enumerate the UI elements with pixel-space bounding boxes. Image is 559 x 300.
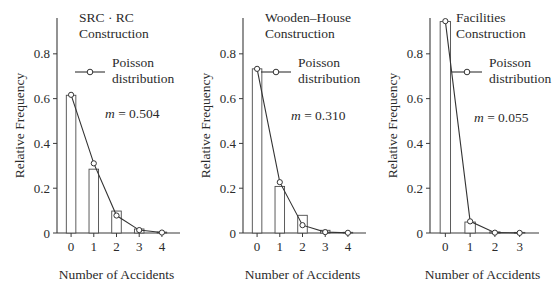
y-tick-label: 0.4	[407, 136, 424, 151]
legend-marker-icon	[273, 69, 279, 75]
x-tick-label: 3	[516, 239, 523, 254]
panel-title-line: Construction	[456, 26, 526, 41]
y-tick-label: 0	[417, 226, 424, 241]
poisson-marker	[345, 230, 350, 235]
y-tick-label: 0.2	[407, 181, 423, 196]
x-tick-label: 0	[68, 239, 75, 254]
x-tick-label: 2	[113, 239, 120, 254]
panel-title: SRC · RCConstruction	[79, 10, 149, 41]
poisson-marker	[137, 227, 142, 232]
y-axis-ticks: 00.20.40.60.8	[407, 46, 430, 240]
x-tick-label: 3	[322, 239, 329, 254]
x-axis-label: Number of Accidents	[245, 267, 360, 282]
poisson-marker	[68, 92, 73, 97]
y-tick-label: 0.6	[220, 91, 237, 106]
y-tick-label: 0.6	[34, 91, 51, 106]
legend-marker-icon	[464, 69, 470, 75]
x-tick-label: 2	[492, 239, 499, 254]
panel-title-line: Construction	[265, 26, 335, 41]
x-tick-label: 4	[345, 239, 352, 254]
x-tick-label: 3	[136, 239, 143, 254]
y-tick-label: 0.8	[220, 46, 236, 61]
poisson-marker	[159, 230, 164, 235]
panel-title-line: Wooden–House	[265, 10, 351, 25]
legend: Poissondistribution	[261, 55, 361, 86]
poisson-marker	[91, 161, 96, 166]
poisson-curve	[257, 69, 348, 233]
legend-label-line: distribution	[298, 71, 361, 86]
poisson-marker	[114, 213, 119, 218]
y-tick-label: 0.2	[220, 181, 236, 196]
chart-panel: 00.20.40.60.801234SRC · RCConstructionPo…	[0, 0, 190, 300]
x-axis-ticks: 01234	[68, 233, 166, 254]
x-tick-label: 0	[254, 239, 260, 254]
poisson-marker	[277, 180, 282, 185]
panel-title-line: Facilities	[456, 10, 506, 25]
poisson-marker	[300, 223, 305, 228]
poisson-marker	[468, 219, 473, 224]
mean-annotation: m = 0.055	[474, 110, 529, 125]
poisson-marker	[323, 230, 328, 235]
histogram-bar	[275, 186, 285, 233]
y-axis-label: Relative Frequency	[12, 73, 27, 179]
legend-label-line: Poisson	[489, 55, 531, 70]
x-axis-label: Number of Accidents	[59, 267, 174, 282]
x-axis-ticks: 01234	[254, 233, 352, 254]
y-tick-label: 0.8	[407, 46, 423, 61]
legend: Poissondistribution	[452, 55, 552, 86]
y-tick-label: 0.6	[407, 91, 424, 106]
panel-title: FacilitiesConstruction	[456, 10, 526, 41]
legend-marker-icon	[87, 69, 93, 75]
x-tick-label: 4	[159, 239, 166, 254]
legend-label-line: Poisson	[298, 55, 340, 70]
x-tick-label: 1	[467, 239, 474, 254]
mean-annotation: m = 0.504	[105, 106, 160, 121]
x-axis-ticks: 0123	[442, 233, 523, 254]
y-tick-label: 0.2	[34, 181, 50, 196]
panel-title: Wooden–HouseConstruction	[265, 10, 351, 41]
chart-panel: 00.20.40.60.80123FacilitiesConstructionP…	[376, 0, 559, 300]
legend: Poissondistribution	[75, 55, 175, 86]
x-tick-label: 1	[277, 239, 284, 254]
mean-annotation: m = 0.310	[291, 108, 346, 123]
x-tick-label: 1	[91, 239, 98, 254]
y-axis-label: Relative Frequency	[385, 73, 400, 179]
histogram-bar	[89, 169, 99, 233]
poisson-marker	[492, 230, 497, 235]
chart-panel: 00.20.40.60.801234Wooden–HouseConstructi…	[190, 0, 376, 300]
poisson-series	[254, 66, 350, 235]
poisson-marker	[443, 19, 448, 24]
poisson-marker	[254, 66, 259, 71]
poisson-marker	[517, 230, 522, 235]
y-axis-ticks: 00.20.40.60.8	[220, 46, 243, 240]
panel-title-line: SRC · RC	[79, 10, 134, 25]
panel-title-line: Construction	[79, 26, 149, 41]
bar-series	[440, 22, 525, 233]
y-tick-label: 0.8	[34, 46, 50, 61]
poisson-curve	[445, 21, 519, 233]
x-axis-label: Number of Accidents	[425, 267, 540, 282]
legend-label-line: distribution	[489, 71, 552, 86]
x-tick-label: 0	[442, 239, 449, 254]
histogram-bar	[252, 69, 262, 233]
y-tick-label: 0	[44, 226, 51, 241]
y-axis-label: Relative Frequency	[198, 73, 213, 179]
y-axis-ticks: 00.20.40.60.8	[34, 46, 57, 240]
x-tick-label: 2	[299, 239, 306, 254]
y-tick-label: 0	[230, 226, 237, 241]
poisson-series	[443, 19, 522, 236]
y-tick-label: 0.4	[220, 136, 237, 151]
y-tick-label: 0.4	[34, 136, 51, 151]
poisson-figure: 00.20.40.60.801234SRC · RCConstructionPo…	[0, 0, 559, 300]
legend-label-line: distribution	[112, 71, 175, 86]
bar-series	[252, 69, 352, 233]
histogram-bar	[66, 95, 76, 233]
legend-label-line: Poisson	[112, 55, 154, 70]
